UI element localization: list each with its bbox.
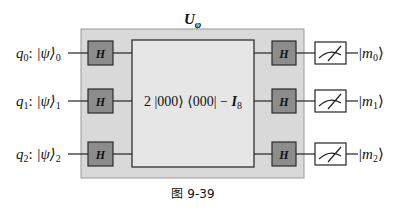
input-label-q0: q0: |ψ⟩0 [16, 45, 61, 63]
quantum-circuit-diagram: Uφ 2 |000⟩ ⟨000| − I8 H H H [0, 0, 409, 208]
input-label-q2: q2: |ψ⟩2 [16, 146, 61, 164]
svg-text:H: H [278, 47, 289, 61]
unitary-label: Uφ [184, 11, 202, 30]
output-label-q1: |m1⟩ [358, 93, 384, 111]
svg-text:H: H [95, 148, 106, 162]
h-gate-left-q1: H [88, 89, 113, 113]
svg-text:H: H [95, 95, 106, 109]
measurement-meter-icon-q1 [315, 90, 346, 112]
h-gate-left-q0: H [88, 41, 113, 65]
measurement-meter-icon-q2 [315, 143, 346, 165]
svg-text:H: H [278, 95, 289, 109]
svg-text:H: H [95, 47, 106, 61]
figure-caption: 图 9-39 [171, 187, 214, 201]
h-gate-right-q2: H [272, 142, 296, 166]
output-label-q0: |m0⟩ [358, 45, 384, 63]
input-label-q1: q1: |ψ⟩1 [16, 93, 61, 111]
h-gate-right-q0: H [272, 41, 296, 65]
h-gate-left-q2: H [88, 142, 113, 166]
diffusion-operator-label: 2 |000⟩ ⟨000| − I8 [144, 94, 242, 111]
svg-text:H: H [278, 148, 289, 162]
measurement-meter-icon-q0 [315, 42, 346, 64]
h-gate-right-q1: H [272, 89, 296, 113]
output-label-q2: |m2⟩ [358, 146, 384, 164]
